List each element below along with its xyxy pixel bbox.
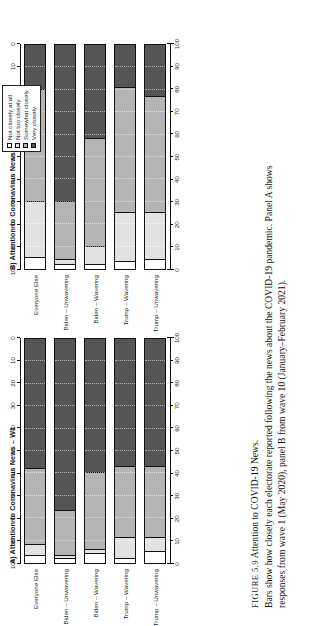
bar-segment-1 bbox=[85, 550, 105, 554]
bar-row bbox=[114, 44, 136, 270]
legend-item: Not too closely bbox=[14, 90, 21, 148]
axis-tick-label: 0 bbox=[9, 336, 16, 339]
bar-segment-2 bbox=[85, 139, 105, 247]
axis-line bbox=[170, 44, 171, 270]
stacked-bar bbox=[114, 44, 136, 270]
category-label: Biden – Wavering bbox=[92, 275, 99, 324]
bar-segment-2 bbox=[115, 467, 135, 539]
bar-segment-3 bbox=[115, 339, 135, 467]
axis-end-cap bbox=[167, 563, 174, 564]
axis-line bbox=[20, 44, 21, 270]
bar-segment-3 bbox=[115, 45, 135, 88]
axis-tick-label: 30 bbox=[173, 199, 180, 206]
axis-tick bbox=[17, 43, 20, 44]
bar-segment-3 bbox=[55, 339, 75, 511]
panel-a: A) Attention to Coronavirus News – W1 Ev… bbox=[8, 336, 234, 604]
axis-bottom: 0102030405060708090100 bbox=[170, 44, 182, 270]
legend-swatch-icon bbox=[15, 143, 20, 148]
stacked-bar bbox=[114, 338, 136, 564]
axis-tick bbox=[17, 156, 20, 157]
bar-row bbox=[144, 338, 166, 564]
panel-b: B) Attention to Coronavirus News – W10 E… bbox=[8, 42, 234, 310]
axis-tick-label: 50 bbox=[173, 154, 180, 161]
axis-tick-label: 50 bbox=[173, 448, 180, 455]
stacked-bar bbox=[54, 338, 76, 564]
axis-tick-label: 0 bbox=[173, 268, 180, 271]
axis-tick-label: 20 bbox=[173, 515, 180, 522]
axis-tick-label: 50 bbox=[9, 448, 16, 455]
bar-segment-2 bbox=[145, 97, 165, 213]
figure-plot-area: A) Attention to Coronavirus News – W1 Ev… bbox=[0, 0, 240, 622]
bar-segment-1 bbox=[55, 556, 75, 558]
axis-tick-label: 90 bbox=[9, 538, 16, 545]
bar-segment-2 bbox=[145, 467, 165, 539]
axis-end-cap bbox=[167, 337, 174, 338]
bar-segment-3 bbox=[145, 339, 165, 467]
axis-tick-label: 80 bbox=[173, 380, 180, 387]
axis-tick bbox=[17, 246, 20, 247]
axis-tick bbox=[17, 269, 20, 270]
figure-caption: FIGURE 5.9 Attention to COVID-19 News. B… bbox=[248, 12, 289, 608]
axis-tick bbox=[17, 427, 20, 428]
axis-tick bbox=[17, 540, 20, 541]
axis-tick-label: 60 bbox=[9, 470, 16, 477]
axis-tick bbox=[17, 518, 20, 519]
axis-tick-label: 10 bbox=[9, 357, 16, 364]
axis-tick-label: 40 bbox=[9, 425, 16, 432]
bar-segment-3 bbox=[85, 45, 105, 139]
axis-tick-label: 70 bbox=[9, 493, 16, 500]
legend-item: Not closely at all bbox=[6, 90, 13, 148]
bar-segment-0 bbox=[115, 559, 135, 563]
caption-heading-line: FIGURE 5.9 Attention to COVID-19 News. bbox=[248, 12, 262, 608]
bar-segment-0 bbox=[145, 260, 165, 269]
axis-top: 1009080706050403020100 bbox=[20, 44, 32, 270]
axis-tick-label: 0 bbox=[9, 42, 16, 45]
axis-tick bbox=[17, 337, 20, 338]
axis-tick bbox=[17, 224, 20, 225]
bar-row bbox=[144, 44, 166, 270]
axis-tick-label: 30 bbox=[173, 493, 180, 500]
axis-tick bbox=[17, 66, 20, 67]
axis-tick-label: 10 bbox=[173, 538, 180, 545]
panel-a-category-labels: Everyone ElseBiden – UnwaveringBiden – W… bbox=[20, 566, 170, 604]
axis-tick bbox=[17, 563, 20, 564]
bar-row bbox=[114, 338, 136, 564]
category-label: Biden – Wavering bbox=[92, 569, 99, 618]
bar-segment-3 bbox=[85, 339, 105, 473]
axis-tick-label: 10 bbox=[173, 244, 180, 251]
bar-segment-1 bbox=[55, 260, 75, 264]
category-label: Everyone Else bbox=[32, 275, 39, 315]
bar-segment-0 bbox=[55, 559, 75, 563]
bar-segment-1 bbox=[115, 213, 135, 262]
bar-segment-0 bbox=[85, 265, 105, 269]
bar-segment-3 bbox=[145, 45, 165, 97]
bar-segment-2 bbox=[55, 512, 75, 557]
axis-tick-label: 40 bbox=[173, 470, 180, 477]
axis-bottom: 0102030405060708090100 bbox=[170, 338, 182, 564]
bar-row bbox=[84, 338, 106, 564]
legend-label: Somewhat closely bbox=[22, 90, 29, 140]
axis-tick bbox=[17, 405, 20, 406]
caption-line-1: Bars show how closely each electorate re… bbox=[262, 12, 275, 608]
figure-number: FIGURE 5.9 bbox=[250, 560, 260, 608]
axis-tick-label: 20 bbox=[9, 380, 16, 387]
axis-tick-label: 100 bbox=[9, 559, 16, 569]
axis-tick-label: 60 bbox=[173, 425, 180, 432]
axis-tick-label: 80 bbox=[9, 515, 16, 522]
category-label: Everyone Else bbox=[32, 569, 39, 609]
axis-tick bbox=[17, 179, 20, 180]
category-label: Trump – Wavering bbox=[122, 569, 129, 619]
bar-segment-0 bbox=[145, 552, 165, 563]
legend: Not closely at allNot too closelySomewha… bbox=[2, 85, 41, 152]
category-label: Biden – Unwavering bbox=[62, 569, 69, 624]
axis-tick-label: 100 bbox=[173, 39, 180, 49]
bar-segment-1 bbox=[145, 213, 165, 260]
axis-tick-label: 50 bbox=[9, 154, 16, 161]
axis-tick-label: 20 bbox=[173, 221, 180, 228]
category-label: Biden – Unwavering bbox=[62, 275, 69, 330]
bar-segment-2 bbox=[115, 88, 135, 213]
caption-line-2: responses from wave 1 (May 2020), panel … bbox=[275, 12, 288, 608]
axis-tick bbox=[17, 382, 20, 383]
axis-tick-label: 60 bbox=[173, 131, 180, 138]
axis-tick-label: 70 bbox=[173, 402, 180, 409]
